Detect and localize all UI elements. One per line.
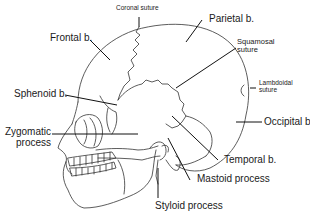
- label-mastoid-process: Mastoid process: [197, 174, 270, 185]
- label-temporal-bone: Temporal b.: [224, 155, 276, 166]
- label-occipital-bone: Occipital b.: [264, 117, 310, 128]
- label-coronal-suture: Coronal suture: [116, 5, 159, 12]
- label-styloid-process: Styloid process: [155, 201, 223, 212]
- label-squamosal-line2: suture: [237, 46, 275, 54]
- label-parietal-bone: Parietal b.: [209, 14, 254, 25]
- label-sphenoid-bone: Sphenoid b.: [14, 89, 67, 100]
- skull-diagram: [0, 0, 310, 219]
- label-frontal-bone: Frontal b.: [50, 33, 92, 44]
- label-squamosal-suture: Squamosal suture: [237, 38, 275, 54]
- label-zygomatic-line1: Zygomatic: [4, 127, 51, 138]
- label-lambdoidal-suture: Lambdoidal suture: [259, 80, 293, 94]
- label-zygomatic-line2: process: [4, 138, 51, 149]
- label-lambdoidal-line2: suture: [259, 87, 293, 94]
- label-zygomatic-process: Zygomatic process: [4, 127, 51, 148]
